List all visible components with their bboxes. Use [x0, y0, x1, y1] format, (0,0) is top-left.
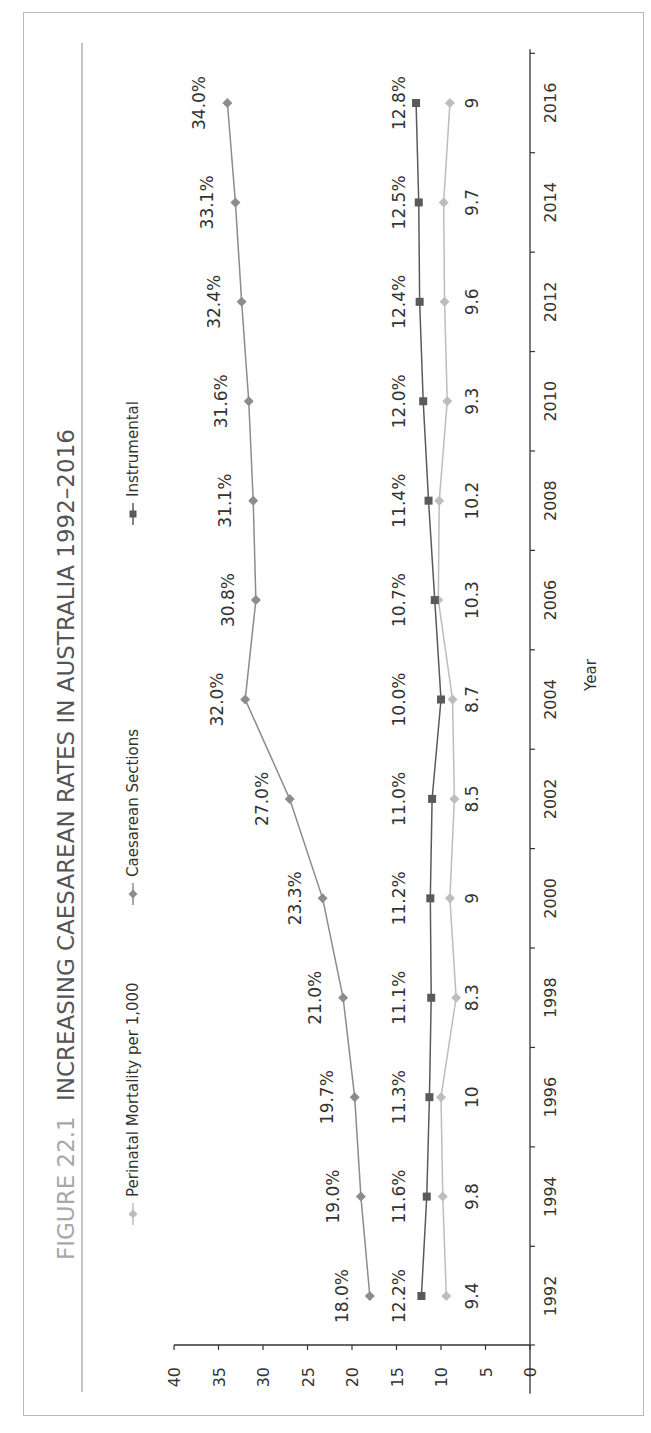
y-tick-label: 35: [210, 1367, 229, 1387]
data-label: 31.6%: [211, 374, 231, 428]
data-point: [417, 1292, 425, 1300]
data-label: 19.0%: [323, 1170, 343, 1224]
data-point: [419, 397, 427, 405]
data-label: 30.8%: [218, 573, 238, 627]
figure-title: FIGURE 22.1 INCREASING CAESAREAN RATES I…: [53, 429, 79, 1260]
data-label: 10.2: [462, 482, 482, 520]
y-tick-label: 5: [477, 1367, 496, 1377]
data-point: [434, 496, 444, 506]
data-point: [423, 1193, 431, 1201]
x-tick-label: 2012: [541, 281, 560, 322]
data-point: [448, 695, 458, 705]
data-label: 8.5: [462, 785, 482, 812]
data-point: [441, 1291, 451, 1301]
data-point: [251, 595, 261, 605]
data-point: [230, 197, 240, 207]
data-point: [440, 297, 450, 307]
data-label: 18.0%: [332, 1269, 352, 1323]
data-point: [318, 893, 328, 903]
data-label: 9.3: [462, 388, 482, 415]
legend-item-perinatal-mortality-per-1-000: Perinatal Mortality per 1,000: [124, 982, 142, 1225]
x-tick-label: 2008: [541, 480, 560, 521]
x-tick-label: 2014: [541, 182, 560, 223]
data-label: 9.6: [462, 288, 482, 315]
data-label: 12.4%: [389, 275, 409, 329]
data-label: 9.4: [462, 1282, 482, 1309]
data-label: 34.0%: [189, 76, 209, 130]
data-point: [237, 297, 247, 307]
data-point: [427, 994, 435, 1002]
data-label: 12.5%: [389, 175, 409, 229]
data-point: [244, 396, 254, 406]
x-tick-label: 2004: [541, 679, 560, 720]
data-point: [425, 1093, 433, 1101]
data-label: 11.2%: [389, 871, 409, 925]
data-label: 21.0%: [305, 971, 325, 1025]
figure-number: FIGURE 22.1: [53, 1116, 79, 1260]
y-tick-label: 25: [299, 1367, 318, 1387]
legend-square-marker-icon: [130, 511, 137, 518]
x-tick-label: 2000: [541, 878, 560, 919]
data-label: 10.3: [462, 581, 482, 619]
data-point: [415, 198, 423, 206]
data-label: 11.1%: [389, 971, 409, 1025]
legend-item-instrumental: Instrumental: [124, 401, 142, 525]
data-label: 31.1%: [215, 474, 235, 528]
data-point: [431, 596, 439, 604]
data-point: [428, 795, 436, 803]
data-point: [350, 1092, 360, 1102]
data-label: 10.7%: [389, 573, 409, 627]
data-point: [437, 696, 445, 704]
data-label: 8.3: [462, 984, 482, 1011]
data-label: 10: [462, 1086, 482, 1108]
x-axis-title: Year: [582, 658, 600, 692]
chart-legend: Perinatal Mortality per 1,000Caesarean S…: [124, 401, 142, 1225]
data-point: [445, 893, 455, 903]
x-tick-label: 2016: [541, 83, 560, 124]
data-point: [248, 496, 258, 506]
x-tick-label: 1998: [541, 977, 560, 1018]
y-tick-label: 15: [388, 1367, 407, 1387]
data-point: [439, 197, 449, 207]
legend-label: Perinatal Mortality per 1,000: [124, 982, 142, 1197]
x-tick-label: 1996: [541, 1077, 560, 1118]
data-point: [356, 1192, 366, 1202]
legend-diamond-marker-icon: [129, 1210, 138, 1219]
data-point: [412, 99, 420, 107]
legend-label: Instrumental: [124, 401, 142, 497]
data-point: [222, 98, 232, 108]
data-point: [416, 298, 424, 306]
x-tick-label: 2002: [541, 779, 560, 820]
data-label: 11.3%: [389, 1070, 409, 1124]
figure-title-text: INCREASING CAESAREAN RATES IN AUSTRALIA …: [53, 429, 79, 1101]
legend-label: Caesarean Sections: [124, 729, 142, 877]
chart-series: 9.49.8108.398.58.710.310.29.39.69.7918.0…: [189, 76, 482, 1323]
data-label: 12.8%: [389, 76, 409, 130]
x-tick-label: 1994: [541, 1176, 560, 1217]
data-label: 19.7%: [317, 1070, 337, 1124]
data-label: 8.7: [462, 686, 482, 713]
data-point: [426, 894, 434, 902]
data-label: 32.4%: [204, 275, 224, 329]
data-point: [449, 794, 459, 804]
data-point: [365, 1291, 375, 1301]
data-point: [425, 497, 433, 505]
legend-item-caesarean-sections: Caesarean Sections: [124, 729, 142, 905]
data-point: [240, 695, 250, 705]
data-label: 9: [462, 98, 482, 109]
y-tick-label: 10: [432, 1367, 451, 1387]
line-chart: FIGURE 22.1 INCREASING CAESAREAN RATES I…: [0, 0, 651, 1433]
data-label: 11.6%: [389, 1170, 409, 1224]
y-tick-label: 0: [521, 1367, 540, 1377]
x-tick-label: 2010: [541, 381, 560, 422]
data-label: 12.2%: [389, 1269, 409, 1323]
data-point: [451, 993, 461, 1003]
data-point: [438, 1192, 448, 1202]
series-instrumental: 12.2%11.6%11.3%11.1%11.2%11.0%10.0%10.7%…: [389, 76, 445, 1323]
x-tick-label: 2006: [541, 580, 560, 621]
y-tick-label: 40: [165, 1367, 184, 1387]
data-label: 12.0%: [389, 374, 409, 428]
data-label: 9: [462, 893, 482, 904]
y-tick-label: 20: [343, 1367, 362, 1387]
series-caesarean-sections: 18.0%19.0%19.7%21.0%23.3%27.0%32.0%30.8%…: [189, 76, 374, 1323]
